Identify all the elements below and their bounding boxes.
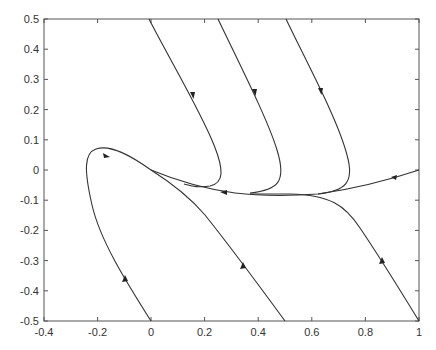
x-tick-labels: -0.4 -0.2 0 0.2 0.4 0.6 0.8 1: [35, 326, 423, 338]
x-tick-label: 0.2: [197, 326, 212, 338]
x-ticks: [44, 19, 419, 321]
y-tick-label: 0: [33, 164, 39, 176]
y-tick-label: 0.1: [24, 134, 39, 146]
y-tick-label: -0.3: [20, 255, 39, 267]
y-tick-label: -0.5: [20, 315, 39, 327]
x-tick-label: 1: [416, 326, 422, 338]
x-tick-label: 0.8: [358, 326, 373, 338]
y-tick-label: 0.2: [24, 104, 39, 116]
x-tick-label: -0.4: [35, 326, 54, 338]
arrow-right-icon: [103, 153, 110, 158]
trajectory-top-1: [149, 19, 221, 187]
phase-portrait-chart: -0.4 -0.2 0 0.2 0.4 0.6 0.8 1 0.5 0.4 0.…: [0, 0, 436, 350]
y-ticks: [44, 19, 419, 321]
y-tick-label: 0.4: [24, 43, 39, 55]
y-tick-label: 0.5: [24, 13, 39, 25]
y-tick-label: 0.3: [24, 73, 39, 85]
trajectory-bottom-right: [250, 194, 419, 321]
y-tick-label: -0.2: [20, 224, 39, 236]
y-tick-labels: 0.5 0.4 0.3 0.2 0.1 0 -0.1 -0.2 -0.3 -0.…: [20, 13, 39, 327]
trajectories: [86, 19, 419, 321]
arrow-left-icon: [391, 175, 397, 180]
y-tick-label: -0.1: [20, 194, 39, 206]
x-tick-label: 0: [148, 326, 154, 338]
arrow-up-icon: [240, 262, 246, 269]
x-tick-label: -0.2: [88, 326, 107, 338]
trajectory-top-2: [218, 19, 281, 193]
direction-arrows: [103, 88, 397, 282]
trajectory-bottom-mid: [151, 170, 285, 321]
x-tick-label: 0.4: [251, 326, 266, 338]
trajectory-bottom-left: [86, 148, 151, 321]
y-tick-label: -0.4: [20, 285, 39, 297]
plot-frame: [44, 19, 419, 321]
trajectory-right: [151, 170, 419, 195]
x-tick-label: 0.6: [304, 326, 319, 338]
trajectory-top-3: [286, 19, 350, 194]
